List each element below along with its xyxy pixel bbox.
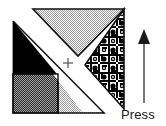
figure-canvas: Press: [0, 0, 166, 126]
piece-dark-checker-square: [13, 74, 58, 113]
press-label: Press: [121, 107, 155, 122]
press-direction-arrow: [138, 29, 150, 103]
